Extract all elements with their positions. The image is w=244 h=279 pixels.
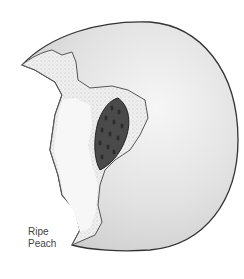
caption: Ripe Peach — [28, 226, 56, 250]
caption-line-1: Ripe — [28, 226, 56, 238]
caption-line-2: Peach — [28, 238, 56, 250]
